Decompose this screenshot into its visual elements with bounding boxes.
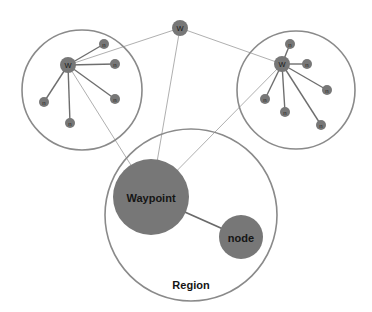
node-left: n	[110, 94, 120, 104]
region-waypoint-diagram: WWnnnnnWnnnnnnWaypointnode Region	[0, 0, 372, 312]
waypoint-link	[180, 28, 282, 64]
node-left: n	[110, 59, 120, 69]
node-left-label: n	[102, 42, 105, 48]
node-right-label: n	[263, 97, 266, 103]
waypoint-left: W	[60, 57, 76, 73]
waypoint-main: Waypoint	[113, 159, 189, 235]
waypoint-right: W	[274, 56, 290, 72]
node-main-label: node	[228, 232, 254, 244]
region-label: Region	[172, 279, 210, 291]
waypoint-left-label: W	[64, 61, 72, 70]
node-left: n	[39, 97, 49, 107]
waypoint-top-label: W	[176, 24, 184, 33]
node-right: n	[285, 39, 295, 49]
region-outline-right	[237, 31, 355, 149]
node-right: n	[322, 85, 332, 95]
node-right: n	[302, 59, 312, 69]
waypoint-top: W	[172, 20, 188, 36]
node-left-label: n	[42, 100, 45, 106]
node-right-label: n	[288, 42, 291, 48]
node-right-label: n	[325, 88, 328, 94]
node-right: n	[260, 94, 270, 104]
node-right-label: n	[305, 62, 308, 68]
spoke-link	[68, 65, 70, 123]
waypoint-right-label: W	[278, 60, 286, 69]
node-left: n	[65, 118, 75, 128]
waypoint-main-label: Waypoint	[126, 192, 175, 204]
node-left: n	[99, 39, 109, 49]
node-left-label: n	[68, 121, 71, 127]
node-left-label: n	[113, 97, 116, 103]
node-right: n	[280, 107, 290, 117]
node-right-label: n	[283, 110, 286, 116]
node-left-label: n	[113, 62, 116, 68]
region-outline-left	[22, 30, 142, 150]
spoke-link	[68, 65, 115, 99]
node-right-label: n	[319, 123, 322, 129]
node-right: n	[316, 120, 326, 130]
node-main: node	[219, 215, 263, 259]
